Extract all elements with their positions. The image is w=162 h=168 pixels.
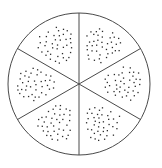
stipple-dot bbox=[115, 50, 116, 51]
stipple-dot bbox=[50, 135, 51, 136]
stipple-dot bbox=[69, 114, 70, 115]
stipple-dot bbox=[86, 45, 87, 46]
stipple-dot bbox=[120, 81, 121, 82]
stipple-dot bbox=[41, 86, 42, 87]
stipple-dot bbox=[22, 82, 23, 83]
stipple-dot bbox=[118, 38, 119, 39]
stipple-dot bbox=[92, 45, 93, 46]
stipple-dot bbox=[50, 122, 51, 123]
stipple-dot bbox=[118, 50, 119, 51]
stipple-dot bbox=[45, 74, 46, 75]
stipple-dot bbox=[97, 131, 98, 132]
stipple-dot bbox=[58, 128, 59, 129]
stipple-dot bbox=[106, 135, 107, 136]
stipple-dot bbox=[95, 138, 96, 139]
stipple-dot bbox=[30, 73, 31, 74]
stipple-dot bbox=[127, 92, 128, 93]
stipple-dot bbox=[139, 79, 140, 80]
stipple-dot bbox=[49, 89, 50, 90]
stipple-dot bbox=[25, 89, 26, 90]
stipple-dot bbox=[25, 71, 26, 72]
stipple-dot bbox=[57, 134, 58, 135]
stipple-dot bbox=[59, 122, 60, 123]
stipple-dot bbox=[107, 43, 108, 44]
stipple-dot bbox=[54, 131, 55, 132]
stipple-dot bbox=[63, 29, 64, 30]
stipple-dot bbox=[60, 39, 61, 40]
stipple-dot bbox=[45, 94, 46, 95]
stipple-dot bbox=[44, 121, 45, 122]
stipple-dot bbox=[129, 80, 130, 81]
stipple-dot bbox=[115, 95, 116, 96]
stipple-dot bbox=[36, 74, 37, 75]
stipple-dot bbox=[107, 92, 108, 93]
stipple-dot bbox=[86, 35, 87, 36]
stipple-dot bbox=[59, 109, 60, 110]
stipple-dot bbox=[115, 80, 116, 81]
stipple-dot bbox=[87, 129, 88, 130]
stipple-dot bbox=[46, 116, 47, 117]
stipple-dot bbox=[116, 84, 117, 85]
stipple-dot bbox=[108, 119, 109, 120]
stipple-dot bbox=[135, 86, 136, 87]
stipple-dot bbox=[17, 85, 18, 86]
stipple-dot bbox=[102, 36, 103, 37]
stipple-dot bbox=[30, 86, 31, 87]
stipple-dot bbox=[87, 118, 88, 119]
stipple-dot bbox=[87, 49, 88, 50]
stipple-dot bbox=[86, 122, 87, 123]
stipple-dot bbox=[50, 75, 51, 76]
circle-sector-diagram bbox=[0, 0, 162, 168]
stipple-dot bbox=[57, 139, 58, 140]
stipple-dot bbox=[97, 40, 98, 41]
stipple-dot bbox=[53, 87, 54, 88]
stipple-dot bbox=[66, 45, 67, 46]
dot-cluster-top-right bbox=[86, 28, 121, 63]
stipple-dot bbox=[130, 67, 131, 68]
stipple-dot bbox=[98, 126, 99, 127]
stipple-dot bbox=[62, 136, 63, 137]
stipple-dot bbox=[43, 130, 44, 131]
stipple-dot bbox=[93, 117, 94, 118]
stipple-dot bbox=[33, 68, 34, 69]
stipple-dot bbox=[100, 62, 101, 63]
stipple-dot bbox=[66, 138, 67, 139]
stipple-dot bbox=[70, 52, 71, 53]
stipple-dot bbox=[99, 110, 100, 111]
stipple-dot bbox=[46, 36, 47, 37]
stipple-dot bbox=[28, 96, 29, 97]
stipple-dot bbox=[89, 41, 90, 42]
stipple-dot bbox=[91, 113, 92, 114]
stipple-dot bbox=[53, 109, 54, 110]
stipple-dot bbox=[102, 31, 103, 32]
dot-cluster-top-left bbox=[38, 27, 73, 64]
stipple-dot bbox=[122, 72, 123, 73]
stipple-dot bbox=[137, 92, 138, 93]
diagram-canvas bbox=[0, 0, 162, 168]
stipple-dot bbox=[45, 55, 46, 56]
stipple-dot bbox=[102, 46, 103, 47]
stipple-dot bbox=[17, 89, 18, 90]
stipple-dot bbox=[90, 31, 91, 32]
stipple-dot bbox=[34, 80, 35, 81]
stipple-dot bbox=[123, 83, 124, 84]
stipple-dot bbox=[45, 80, 46, 81]
stipple-dot bbox=[107, 53, 108, 54]
stipple-dot bbox=[90, 137, 91, 138]
stipple-dot bbox=[103, 127, 104, 128]
stipple-dot bbox=[68, 135, 69, 136]
dot-cluster-bottom-left bbox=[37, 105, 71, 141]
stipple-dot bbox=[114, 74, 115, 75]
stipple-dot bbox=[50, 54, 51, 55]
dot-cluster-right bbox=[105, 66, 141, 100]
stipple-dot bbox=[118, 74, 119, 75]
stipple-dot bbox=[91, 50, 92, 51]
stipple-dot bbox=[124, 90, 125, 91]
stipple-dot bbox=[108, 124, 109, 125]
stipple-dot bbox=[53, 125, 54, 126]
stipple-dot bbox=[38, 119, 39, 120]
stipple-dot bbox=[105, 87, 106, 88]
stipple-dot bbox=[100, 134, 101, 135]
stipple-dot bbox=[110, 37, 111, 38]
stipple-dot bbox=[35, 89, 36, 90]
